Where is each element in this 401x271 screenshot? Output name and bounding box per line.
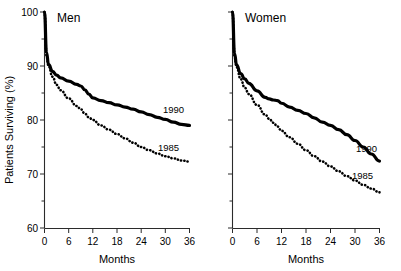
women-x-axis-title: Months [288, 253, 325, 265]
x-tick-36: 36 [374, 236, 386, 247]
x-tick-0: 0 [42, 236, 48, 247]
x-tick-18: 18 [111, 236, 123, 247]
panel-title-women: Women [245, 11, 286, 25]
x-tick-30: 30 [349, 236, 361, 247]
men-y-ticks [40, 12, 45, 228]
x-tick-6: 6 [254, 236, 260, 247]
women-curve-1985 [233, 12, 380, 192]
women-label-1990: 1990 [356, 143, 377, 154]
panel-women: 0 6 12 18 24 30 36 Women Months 1990 198… [228, 11, 385, 265]
y-tick-80: 80 [27, 115, 39, 126]
x-tick-6: 6 [66, 236, 72, 247]
men-x-ticks [45, 229, 190, 234]
y-tick-70: 70 [27, 169, 39, 180]
men-x-axis-title: Months [99, 253, 136, 265]
x-tick-30: 30 [160, 236, 172, 247]
women-x-ticks [233, 229, 380, 234]
y-tick-100: 100 [21, 7, 38, 18]
y-tick-90: 90 [27, 61, 39, 72]
x-tick-18: 18 [300, 236, 312, 247]
women-curve-1990 [233, 12, 380, 161]
x-tick-24: 24 [136, 236, 148, 247]
men-label-1985: 1985 [158, 142, 179, 153]
survival-curves-figure: Patients Surviving (%) 100 90 80 70 60 [0, 0, 401, 271]
panel-title-men: Men [57, 11, 80, 25]
men-curve-1985 [45, 12, 190, 162]
y-tick-60: 60 [27, 223, 39, 234]
y-axis-title: Patients Surviving (%) [3, 76, 15, 184]
men-y-tick-labels: 100 90 80 70 60 [21, 7, 38, 234]
men-label-1990: 1990 [163, 104, 184, 115]
women-y-ticks [228, 12, 233, 228]
x-tick-24: 24 [325, 236, 337, 247]
panel-men: 100 90 80 70 60 0 6 12 18 24 30 36 Men [21, 7, 195, 265]
women-label-1985: 1985 [352, 170, 373, 181]
x-tick-36: 36 [184, 236, 196, 247]
men-x-tick-labels: 0 6 12 18 24 30 36 [42, 236, 196, 247]
women-x-tick-labels: 0 6 12 18 24 30 36 [230, 236, 386, 247]
x-tick-12: 12 [276, 236, 288, 247]
x-tick-0: 0 [230, 236, 236, 247]
x-tick-12: 12 [87, 236, 99, 247]
